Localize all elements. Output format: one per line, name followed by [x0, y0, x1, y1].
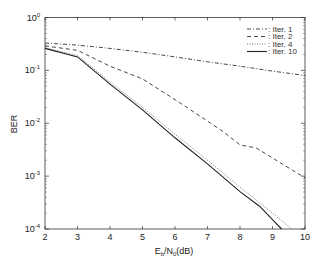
y-tick-label: 10-4	[25, 223, 41, 234]
x-tick-label: 6	[172, 232, 177, 242]
y-tick-label: 10-1	[25, 64, 41, 75]
y-tick-label: 10-2	[25, 117, 41, 128]
ber-chart: 10010-110-210-310-4 2345678910 BER Eb/N0…	[0, 0, 319, 265]
y-axis-label: BER	[9, 114, 19, 133]
y-tick-label: 100	[27, 12, 41, 23]
plot-area	[45, 18, 305, 230]
legend-label: : Iter. 10	[268, 47, 297, 56]
y-tick-label: 10-3	[25, 170, 41, 181]
x-tick-label: 3	[75, 232, 80, 242]
x-tick-label: 10	[300, 232, 310, 242]
x-axis-label: Eb/N0(dB)	[155, 246, 194, 257]
x-tick-label: 4	[107, 232, 112, 242]
x-tick-label: 7	[205, 232, 210, 242]
x-tick-label: 9	[270, 232, 275, 242]
x-tick-label: 2	[42, 232, 47, 242]
x-tick-label: 5	[140, 232, 145, 242]
x-tick-label: 8	[237, 232, 242, 242]
